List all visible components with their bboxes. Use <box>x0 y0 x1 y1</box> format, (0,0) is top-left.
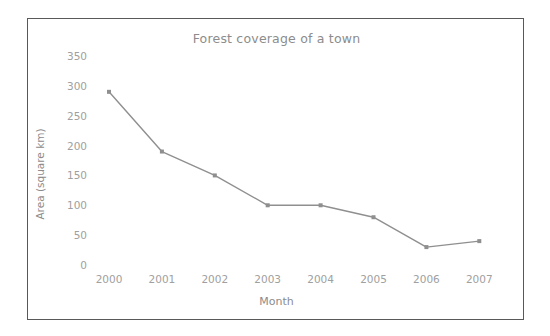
x-axis-title: Month <box>28 295 525 308</box>
x-axis-tick-label: 2003 <box>238 273 298 285</box>
x-axis-tick-label: 2004 <box>291 273 351 285</box>
chart-frame-border: Forest coverage of a town Area (square k… <box>27 18 524 320</box>
data-point-marker <box>424 245 428 249</box>
data-point-marker <box>372 215 376 219</box>
x-axis-tick-label: 2000 <box>79 273 139 285</box>
chart-figure: Forest coverage of a town Area (square k… <box>0 0 550 336</box>
x-axis-tick-label: 2005 <box>344 273 404 285</box>
data-point-marker <box>160 150 164 154</box>
x-axis-tick-label: 2006 <box>396 273 456 285</box>
data-point-marker <box>107 90 111 94</box>
data-point-marker <box>319 203 323 207</box>
data-line-forest-coverage <box>109 92 479 247</box>
data-point-markers <box>107 90 481 249</box>
data-point-marker <box>213 173 217 177</box>
plot-area: Area (square km) 350300250200150100500 2… <box>28 19 525 321</box>
x-axis-tick-label: 2002 <box>185 273 245 285</box>
data-point-marker <box>266 203 270 207</box>
data-point-marker <box>477 239 481 243</box>
x-axis-tick-label: 2001 <box>132 273 192 285</box>
x-axis-tick-label: 2007 <box>449 273 509 285</box>
